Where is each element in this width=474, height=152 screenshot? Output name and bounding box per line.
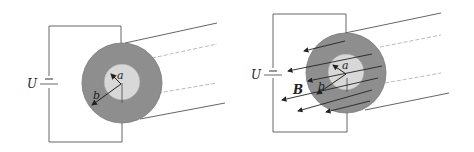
- radius-a-label: a: [117, 69, 124, 82]
- inner-top-dashed: [380, 35, 441, 47]
- voltage-label: U: [27, 77, 38, 91]
- coaxial-cable-diagram: U a b U: [0, 0, 474, 152]
- field-label: B: [292, 83, 303, 97]
- inner-bottom-dashed: [385, 73, 441, 83]
- left-figure: U a b: [27, 23, 225, 142]
- inner-top-dashed: [152, 44, 217, 58]
- radius-b-label: b: [318, 80, 325, 93]
- radius-b-label: b: [93, 89, 100, 102]
- cable-top-edge: [125, 23, 217, 43]
- voltage-label: U: [251, 68, 262, 82]
- right-figure: U a b B: [251, 13, 449, 132]
- cable-top-edge: [345, 13, 441, 33]
- radius-a-label: a: [342, 59, 349, 72]
